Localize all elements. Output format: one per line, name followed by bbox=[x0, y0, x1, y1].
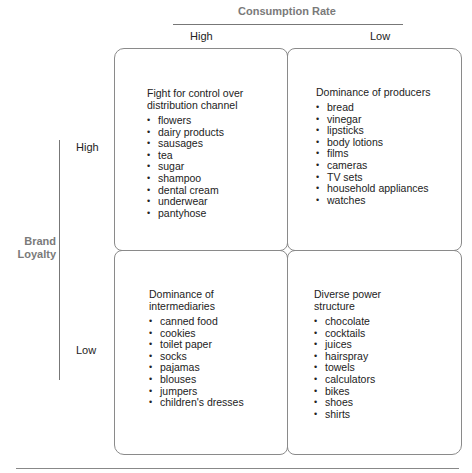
quadrant-top-left: Fight for control over distribution chan… bbox=[114, 48, 288, 251]
quadrant-title: Dominance of producers bbox=[316, 86, 430, 98]
list-item: cameras bbox=[316, 160, 430, 172]
list-item: children's dresses bbox=[149, 397, 244, 409]
list-item: underwear bbox=[147, 196, 243, 208]
quadrant-title: Diverse power structure bbox=[314, 288, 381, 312]
x-label-low: Low bbox=[370, 30, 390, 42]
list-item: blouses bbox=[149, 374, 244, 386]
x-axis-rule bbox=[173, 24, 403, 25]
list-item: flowers bbox=[147, 115, 243, 127]
quadrant-title: Dominance of intermediaries bbox=[149, 288, 244, 312]
list-item: shirts bbox=[314, 409, 381, 421]
list-item: chocolate bbox=[314, 316, 381, 328]
y-axis-title-text: Brand Loyalty bbox=[12, 235, 56, 261]
y-axis-title: Brand Loyalty bbox=[6, 235, 56, 261]
item-list: flowersdairy productssausagesteasugarsha… bbox=[147, 115, 243, 219]
list-item: calculators bbox=[314, 374, 381, 386]
list-item: watches bbox=[316, 195, 430, 207]
y-label-high: High bbox=[76, 141, 99, 153]
x-axis-title: Consumption Rate bbox=[172, 5, 402, 17]
list-item: shampoo bbox=[147, 173, 243, 185]
bottom-rule bbox=[16, 468, 459, 469]
list-item: pantyhose bbox=[147, 208, 243, 220]
quadrant-bottom-left: Dominance of intermediaries canned foodc… bbox=[114, 250, 288, 455]
list-item: bread bbox=[316, 102, 430, 114]
list-item: canned food bbox=[149, 316, 244, 328]
list-item: household appliances bbox=[316, 183, 430, 195]
item-list: chocolatecocktailsjuiceshairspraytowelsc… bbox=[314, 316, 381, 420]
quadrant-top-right: Dominance of producers breadvinegarlipst… bbox=[287, 48, 462, 251]
list-item: shoes bbox=[314, 397, 381, 409]
quadrant-title: Fight for control over distribution chan… bbox=[147, 87, 243, 111]
item-list: breadvinegarlipsticksbody lotionsfilmsca… bbox=[316, 102, 430, 206]
item-list: canned foodcookiestoilet papersockspajam… bbox=[149, 316, 244, 409]
quadrant-bottom-right: Diverse power structure chocolatecocktai… bbox=[287, 250, 462, 455]
y-axis-rule bbox=[59, 140, 60, 380]
x-label-high: High bbox=[190, 30, 213, 42]
y-label-low: Low bbox=[76, 344, 96, 356]
